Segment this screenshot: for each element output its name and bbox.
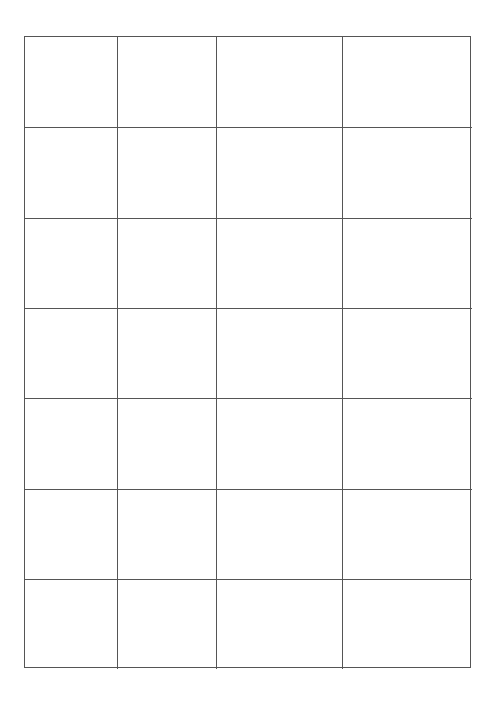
grid-cell-r2-c4 [343, 128, 472, 219]
grid-cell-r3-c4 [343, 219, 472, 309]
grid-cell-r4-c2 [118, 309, 217, 399]
grid-cell-r2-c1 [25, 128, 118, 219]
grid-cell-r6-c3 [217, 490, 343, 580]
grid-cell-r1-c1 [25, 37, 118, 128]
grid-cell-r5-c1 [25, 399, 118, 490]
grid-cell-r7-c3 [217, 580, 343, 669]
grid-cell-r3-c2 [118, 219, 217, 309]
grid-cell-r3-c3 [217, 219, 343, 309]
grid-cell-r7-c2 [118, 580, 217, 669]
grid-cell-r2-c2 [118, 128, 217, 219]
grid-cell-r4-c1 [25, 309, 118, 399]
grid-cell-r1-c4 [343, 37, 472, 128]
grid-cell-r1-c3 [217, 37, 343, 128]
grid-cell-r7-c1 [25, 580, 118, 669]
blank-grid-table [24, 36, 471, 668]
grid-cell-r4-c4 [343, 309, 472, 399]
grid-cell-r1-c2 [118, 37, 217, 128]
grid-cell-r4-c3 [217, 309, 343, 399]
grid-cell-r6-c4 [343, 490, 472, 580]
grid-cell-r2-c3 [217, 128, 343, 219]
grid-cell-r6-c1 [25, 490, 118, 580]
grid-cell-r5-c4 [343, 399, 472, 490]
grid-cell-r6-c2 [118, 490, 217, 580]
grid-cell-r5-c2 [118, 399, 217, 490]
grid-cell-r3-c1 [25, 219, 118, 309]
grid-cell-r5-c3 [217, 399, 343, 490]
grid-cell-r7-c4 [343, 580, 472, 669]
